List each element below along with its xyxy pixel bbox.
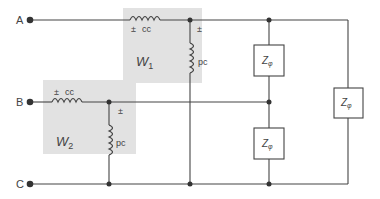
terminal-a-label: A — [16, 14, 24, 26]
terminal-c-label: C — [16, 178, 24, 190]
node — [188, 18, 193, 23]
w2-cc-label: cc — [65, 87, 75, 97]
w2-pc-polarity: ± — [118, 106, 123, 116]
terminal-b-dot — [27, 99, 34, 106]
w1-pc-polarity: ± — [197, 24, 202, 34]
node — [267, 182, 272, 187]
w1-pc-label: pc — [198, 57, 208, 67]
node — [267, 100, 272, 105]
w2-pc-label: pc — [116, 138, 126, 148]
node — [267, 18, 272, 23]
w2-cc-polarity: ± — [54, 87, 59, 97]
node — [107, 100, 112, 105]
node — [107, 182, 112, 187]
w1-cc-polarity: ± — [131, 24, 136, 34]
node — [188, 182, 193, 187]
terminal-c-dot — [27, 181, 34, 188]
terminal-a-dot — [27, 17, 34, 24]
w1-cc-label: cc — [142, 24, 152, 34]
terminal-b-label: B — [16, 96, 23, 108]
circuit-diagram: A B C ± cc ± pc W1 ± cc ± pc W2 Zφ Zφ Zφ — [0, 0, 380, 199]
